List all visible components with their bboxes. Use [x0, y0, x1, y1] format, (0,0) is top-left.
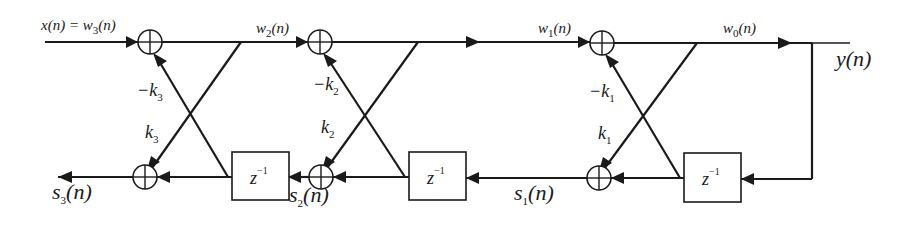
arrow-left-icon: [333, 171, 346, 183]
k2-branch: [327, 42, 418, 168]
minus-k2-branch: [326, 56, 405, 177]
s1-label: s1(n): [514, 180, 554, 207]
lattice-filter-diagram: z−1 z−1 z−1 x(n) = w3(n) w2(n) w1(n) w0(…: [0, 0, 924, 225]
w1-label: w1(n): [538, 20, 571, 39]
arrow-right-icon: [466, 36, 480, 48]
w0-label: w0(n): [723, 20, 756, 39]
arrow-right-icon: [578, 36, 590, 48]
adder-top-stage2: [308, 30, 332, 54]
minus-k1-branch: [608, 57, 680, 178]
output-label: y(n): [834, 46, 871, 71]
delay-label: z: [701, 169, 709, 189]
minus-k2-label: −k2: [313, 74, 339, 97]
forward-path: [45, 36, 850, 49]
adder-bottom-stage3: [133, 165, 157, 189]
delay-box-stage2: z−1: [409, 152, 466, 200]
minus-k3-label: −k3: [137, 80, 163, 103]
k3-label: k3: [145, 122, 159, 145]
delay-label: z: [249, 168, 257, 188]
adder-top-stage3: [138, 30, 162, 54]
arrow-left-icon: [466, 172, 479, 184]
w2-label: w2(n): [256, 20, 289, 39]
input-label: x(n) = w3(n): [40, 17, 116, 36]
arrow-left-icon: [157, 171, 170, 183]
arrow-up-left-icon: [323, 53, 337, 67]
arrow-left-icon: [611, 172, 624, 184]
adder-bottom-stage1: [587, 166, 611, 190]
arrow-up-left-icon: [153, 53, 167, 67]
minus-k1-label: −k1: [589, 81, 615, 104]
arrow-right-icon: [296, 36, 308, 48]
s3-label: s3(n): [52, 179, 92, 206]
output-feedback: [741, 43, 812, 185]
delay-label: z: [426, 168, 434, 188]
k1-label: k1: [598, 123, 612, 146]
adder-top-stage1: [590, 31, 614, 55]
arrow-left-icon: [741, 173, 754, 185]
arrow-right-icon: [778, 37, 792, 49]
s2-label: s2(n): [289, 182, 329, 209]
arrow-right-icon: [126, 36, 138, 48]
k2-label: k2: [321, 117, 335, 140]
arrow-up-left-icon: [605, 54, 619, 68]
delay-box-stage3: z−1: [232, 152, 289, 200]
delay-box-stage1: z−1: [684, 153, 741, 202]
